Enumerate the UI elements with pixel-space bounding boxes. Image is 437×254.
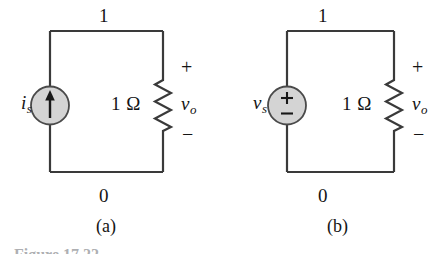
figure-caption-clipped: Figure 17.22 xyxy=(14,246,99,254)
node-label-bottom-a: 0 xyxy=(99,186,109,205)
output-voltage-label-b: vo xyxy=(412,94,427,116)
sub-caption-a: (a) xyxy=(96,217,116,235)
output-voltage-main-b: v xyxy=(412,93,420,114)
node-label-top-b: 1 xyxy=(318,6,328,25)
sub-caption-b: (b) xyxy=(327,217,348,235)
node-label-top-a: 1 xyxy=(99,6,109,25)
current-source-label-main-a: i xyxy=(21,92,26,113)
voltage-source-label-sub-b: s xyxy=(262,101,267,116)
current-source-label-a: is xyxy=(21,93,32,115)
resistor-zigzag-a xyxy=(155,74,171,132)
voltage-source-label-b: vs xyxy=(253,93,267,115)
polarity-plus-b: + xyxy=(412,57,423,77)
polarity-minus-a: − xyxy=(182,124,193,144)
polarity-minus-b: − xyxy=(413,124,424,144)
resistor-zigzag-b xyxy=(386,74,402,132)
polarity-plus-a: + xyxy=(181,57,192,77)
resistor-value-a: 1 Ω xyxy=(111,94,141,113)
current-source-label-sub-a: s xyxy=(27,101,32,116)
resistor-value-b: 1 Ω xyxy=(342,94,372,113)
output-voltage-sub-a: o xyxy=(190,102,197,117)
output-voltage-label-a: vo xyxy=(181,94,196,116)
output-voltage-sub-b: o xyxy=(421,102,428,117)
output-voltage-main-a: v xyxy=(181,93,189,114)
circuit-diagram-b: 1 0 vs 1 Ω + − vo (b) xyxy=(219,0,437,254)
circuit-diagram-a: 1 0 is 1 Ω + − vo (a) xyxy=(0,0,218,254)
figure-root: 1 0 is 1 Ω + − vo (a) xyxy=(0,0,437,254)
node-label-bottom-b: 0 xyxy=(318,186,328,205)
voltage-source-label-main-b: v xyxy=(253,92,261,113)
